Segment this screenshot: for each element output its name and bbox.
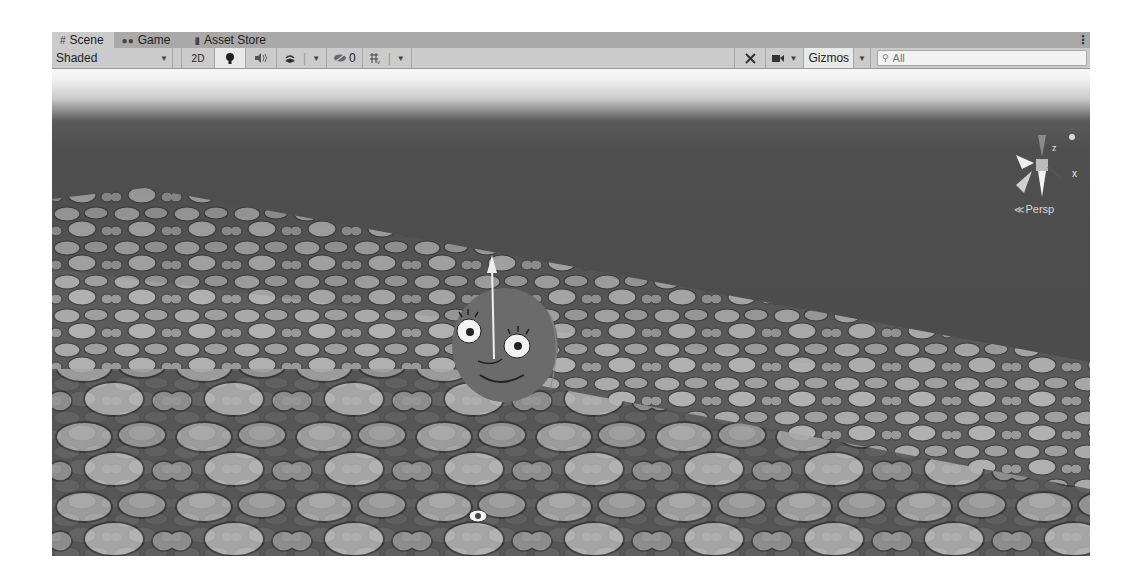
scene-window: # Scene ●● Game ▮ Asset Store ⋮ Shaded ▼…	[52, 32, 1090, 556]
camera-dropdown[interactable]: ▼	[766, 48, 804, 68]
tab-game-label: Game	[138, 33, 171, 47]
grid-snap-icon: y	[369, 52, 382, 64]
hidden-count: 0	[349, 51, 356, 65]
speaker-icon	[254, 53, 268, 63]
chevron-left-icon: ≪	[1014, 204, 1024, 215]
grid-icon: #	[60, 35, 66, 46]
cobblestone-ground-plane	[52, 69, 1090, 556]
tab-asset-store[interactable]: ▮ Asset Store	[180, 32, 276, 48]
chevron-down-icon: ▼	[858, 54, 866, 63]
gizmos-label: Gizmos	[808, 51, 849, 65]
camera-icon	[772, 54, 785, 63]
camera-gizmo-icon[interactable]	[469, 510, 487, 522]
x-axis-label: x	[1072, 168, 1077, 179]
lighting-toggle-button[interactable]	[215, 48, 246, 68]
draw-mode-dropdown[interactable]: Shaded ▼	[52, 48, 173, 68]
gamepad-icon: ●●	[122, 35, 134, 46]
2d-label: 2D	[192, 53, 205, 64]
search-field[interactable]: ⚲	[877, 50, 1087, 66]
2d-toggle-button[interactable]: 2D	[181, 48, 215, 68]
scene-viewport[interactable]: z x ≪Persp	[52, 69, 1090, 556]
projection-toggle[interactable]: ≪Persp	[1014, 203, 1054, 215]
grid-dropdown[interactable]: y | ▼	[363, 48, 412, 68]
lightbulb-icon	[225, 52, 235, 65]
gizmos-button[interactable]: Gizmos	[804, 48, 854, 68]
chevron-down-icon: ▼	[312, 54, 320, 63]
chevron-down-icon: ▼	[160, 54, 168, 63]
audio-toggle-button[interactable]	[246, 48, 277, 68]
tab-scene-label: Scene	[70, 33, 104, 47]
svg-text:y: y	[377, 59, 380, 64]
tab-game[interactable]: ●● Game	[114, 32, 181, 48]
draw-mode-label: Shaded	[56, 51, 97, 65]
gizmos-dropdown[interactable]: ▼	[854, 48, 871, 68]
more-menu-icon[interactable]: ⋮	[1076, 32, 1090, 48]
scene-toolbar: Shaded ▼ 2D | ▼ 0 y | ▼	[52, 48, 1090, 69]
hidden-objects-toggle[interactable]: 0	[327, 48, 363, 68]
shopping-bag-icon: ▮	[194, 35, 200, 46]
search-icon: ⚲	[882, 53, 889, 63]
projection-label: Persp	[1025, 203, 1054, 215]
orientation-gizmo[interactable]: z x	[1002, 127, 1082, 207]
chevron-down-icon: ▼	[789, 54, 797, 63]
tab-asset-store-label: Asset Store	[204, 33, 266, 47]
effects-dropdown[interactable]: | ▼	[277, 48, 327, 68]
chevron-down-icon: ▼	[397, 54, 405, 63]
tab-scene[interactable]: # Scene	[52, 32, 114, 48]
z-axis-label: z	[1052, 143, 1057, 153]
tools-icon	[744, 52, 757, 65]
effects-layers-icon	[283, 53, 297, 64]
tools-button[interactable]	[734, 48, 766, 68]
search-input[interactable]	[893, 52, 1053, 64]
eye-slash-icon	[333, 53, 347, 63]
tab-bar: # Scene ●● Game ▮ Asset Store ⋮	[52, 32, 1090, 48]
